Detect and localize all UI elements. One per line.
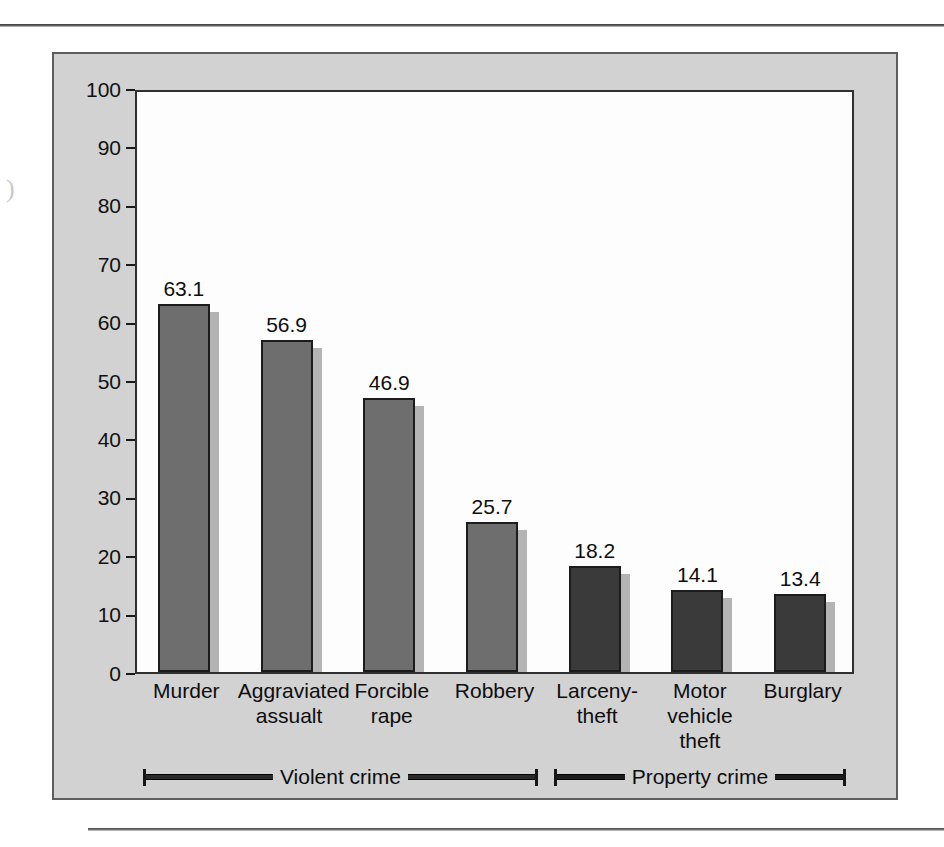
legend-group: Property crime	[554, 760, 846, 794]
y-axis-tick-mark	[126, 381, 135, 383]
y-axis-tick-mark	[126, 206, 135, 208]
y-axis-tick-label: 90	[98, 137, 121, 158]
legend-bracket-rail-right	[408, 774, 535, 780]
legend-group: Violent crime	[143, 760, 538, 794]
y-axis-tick-mark	[126, 323, 135, 325]
bar[interactable]	[671, 590, 723, 672]
y-axis-tick-mark	[126, 615, 135, 617]
bar-value-label: 14.1	[671, 564, 723, 585]
x-axis-label: Aggraviatedassualt	[238, 678, 341, 728]
bar[interactable]	[466, 522, 518, 672]
bar[interactable]	[363, 398, 415, 672]
bar[interactable]	[774, 594, 826, 672]
x-axis-label-line: rape	[340, 703, 443, 728]
x-axis-label: Larceny-theft	[546, 678, 649, 728]
chart-figure-panel: 0102030405060708090100 63.156.946.925.71…	[52, 52, 898, 800]
y-axis-tick-label: 10	[98, 604, 121, 625]
y-axis-tick-mark	[126, 264, 135, 266]
bar-value-label: 46.9	[363, 372, 415, 393]
bar-slot: 18.2	[569, 92, 630, 672]
bar-value-label: 18.2	[569, 540, 621, 561]
y-axis-tick-label: 70	[98, 254, 121, 275]
y-axis-tick-mark	[126, 673, 135, 675]
legend-bracket-cap-right	[843, 769, 846, 786]
y-axis-tick-mark	[126, 147, 135, 149]
y-axis-tick-label: 30	[98, 487, 121, 508]
x-axis-label: Forciblerape	[340, 678, 443, 728]
y-axis: 0102030405060708090100	[54, 90, 135, 674]
x-axis-label-line: theft	[546, 703, 649, 728]
legend-label: Violent crime	[273, 766, 408, 787]
x-axis-label-line: Burglary	[751, 678, 854, 703]
bar-slot: 63.1	[158, 92, 219, 672]
legend-bracket-rail-left	[557, 774, 625, 780]
y-axis-tick-label: 40	[98, 429, 121, 450]
legend-bracket-rail-left	[146, 774, 273, 780]
y-axis-tick-label: 80	[98, 195, 121, 216]
page-bottom-rule	[88, 828, 944, 831]
bar-slot: 13.4	[774, 92, 835, 672]
margin-mark: )	[6, 176, 24, 202]
x-axis-label: Motorvehicletheft	[649, 678, 752, 753]
plot-area: 63.156.946.925.718.214.113.4	[135, 90, 854, 674]
x-axis-label-line: Motor	[649, 678, 752, 703]
bar-slot: 46.9	[363, 92, 424, 672]
x-axis-label-line: theft	[649, 728, 752, 753]
bar[interactable]	[569, 566, 621, 672]
bar-slot: 56.9	[261, 92, 322, 672]
y-axis-tick-label: 60	[98, 312, 121, 333]
legend-bracket-cap-right	[535, 769, 538, 786]
bar-value-label: 56.9	[261, 314, 313, 335]
y-axis-tick-mark	[126, 439, 135, 441]
x-axis-label: Murder	[135, 678, 238, 703]
y-axis-tick-label: 0	[109, 663, 121, 684]
page-top-rule	[0, 24, 944, 27]
x-axis-label: Robbery	[443, 678, 546, 703]
legend-label: Property crime	[625, 766, 776, 787]
bar[interactable]	[158, 304, 210, 673]
y-axis-tick-label: 20	[98, 546, 121, 567]
x-axis-label-line: vehicle	[649, 703, 752, 728]
y-axis-tick-label: 100	[86, 79, 121, 100]
x-axis-label-line: Aggraviated	[238, 678, 341, 703]
bar-slot: 25.7	[466, 92, 527, 672]
bar-slot: 14.1	[671, 92, 732, 672]
bar-value-label: 63.1	[158, 278, 210, 299]
chart-legend: Violent crimeProperty crime	[135, 760, 875, 794]
x-axis-label-line: Murder	[135, 678, 238, 703]
x-axis-label: Burglary	[751, 678, 854, 703]
x-axis-label-line: Forcible	[340, 678, 443, 703]
y-axis-tick-mark	[126, 498, 135, 500]
bar-value-label: 13.4	[774, 568, 826, 589]
x-axis-label-line: Robbery	[443, 678, 546, 703]
x-axis-label-line: assualt	[238, 703, 341, 728]
bar[interactable]	[261, 340, 313, 672]
x-axis-label-line: Larceny-	[546, 678, 649, 703]
bar-value-label: 25.7	[466, 496, 518, 517]
y-axis-tick-mark	[126, 556, 135, 558]
y-axis-tick-mark	[126, 89, 135, 91]
legend-bracket-rail-right	[775, 774, 843, 780]
y-axis-tick-label: 50	[98, 371, 121, 392]
